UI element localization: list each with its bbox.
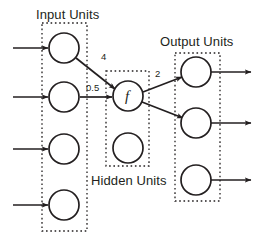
input-unit-3 [49, 134, 79, 164]
external-output-arrows [211, 72, 251, 180]
connection-weight-label-4: 4 [101, 51, 106, 62]
output-unit-2 [181, 108, 211, 138]
hidden-unit-2 [113, 133, 143, 163]
unit-circles [49, 33, 211, 220]
output-unit-1 [181, 57, 211, 87]
diagram-canvas: Input Units Output Units Hidden Units 4 … [0, 0, 262, 235]
hidden-units-label: Hidden Units [91, 173, 167, 188]
input-unit-2 [49, 82, 79, 112]
connection-weight-label-2: 2 [155, 68, 160, 79]
input-unit-4 [49, 190, 79, 220]
output-unit-3 [181, 165, 211, 195]
input-units-label: Input Units [36, 7, 99, 22]
connection-weight-label-0-5: 0.5 [86, 82, 99, 93]
output-units-label: Output Units [160, 34, 233, 49]
hidden-unit-function-label: f [125, 88, 129, 105]
connection-hidden1-output2 [142, 102, 183, 118]
input-unit-1 [49, 33, 79, 63]
external-input-arrows [13, 48, 48, 205]
